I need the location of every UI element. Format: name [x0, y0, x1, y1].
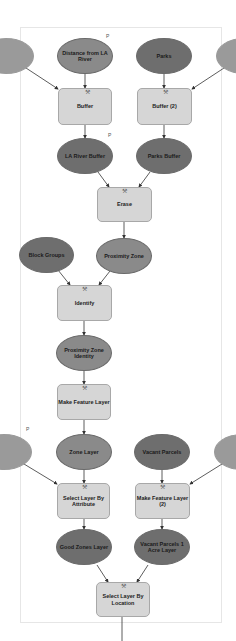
hammer-icon: ⚒: [81, 484, 87, 490]
hammer-icon: ⚒: [120, 583, 126, 589]
hammer-icon: ⚒: [162, 89, 168, 95]
node-vacant-parcels[interactable]: Vacant Parcels: [134, 434, 190, 470]
node-parks[interactable]: Parks: [136, 38, 192, 74]
node-good-zones-layer[interactable]: Good Zones Layer: [56, 529, 112, 565]
node-zone-layer[interactable]: Zone Layer: [56, 434, 112, 470]
node-proximity-zone-identity[interactable]: Proximity Zone Identity: [56, 335, 112, 371]
node-vacant-parcels-1-acre-layer[interactable]: Vacant Parcels 1 Acre Layer: [134, 529, 190, 565]
node-la-river-buffer[interactable]: LA River Buffer: [57, 138, 113, 174]
connectors: [0, 0, 236, 641]
hammer-icon: ⚒: [84, 89, 90, 95]
parameter-marker: P: [106, 33, 109, 39]
parameter-marker: P: [108, 132, 111, 138]
node-distance-from-la-river[interactable]: Distance from LA River: [57, 38, 113, 74]
node-parks-buffer[interactable]: Parks Buffer: [136, 138, 192, 174]
hammer-icon: ⚒: [81, 286, 87, 292]
parameter-marker: P: [26, 426, 29, 432]
hammer-icon: ⚒: [121, 188, 127, 194]
hammer-icon: ⚒: [159, 484, 165, 490]
node-proximity-zone[interactable]: Proximity Zone: [96, 238, 152, 274]
hammer-icon: ⚒: [81, 385, 87, 391]
node-block-groups[interactable]: Block Groups: [19, 237, 74, 273]
